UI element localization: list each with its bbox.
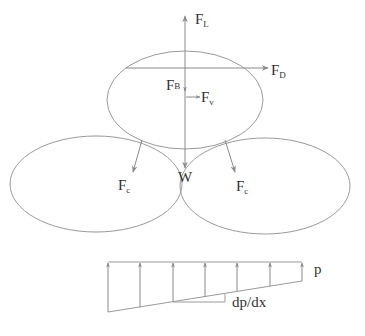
drag-label: FD [271,62,286,80]
contact-right-label: Fc [236,178,248,196]
buoyancy-label: FB [166,77,180,93]
svg-text:FL: FL [195,11,209,29]
svg-text:Fv: Fv [201,89,214,107]
lift-label: FL [195,11,209,29]
svg-text:Fc: Fc [118,177,130,195]
left-particle [10,136,182,232]
pressure-label: p [314,261,322,277]
contact-right-arrow [225,140,235,172]
right-particle [180,138,350,234]
virtual-mass-label: Fv [201,89,214,107]
svg-text:Fc: Fc [236,178,248,196]
svg-text:FB: FB [166,77,180,93]
weight-label: W [178,169,193,185]
force-diagram: FL FD FB Fv Fc Fc W p dp/dx [0,0,365,336]
gradient-label: dp/dx [232,294,267,310]
contact-left-arrow [133,140,142,172]
pressure-diagram [108,262,302,312]
svg-text:FD: FD [271,62,286,80]
contact-left-label: Fc [118,177,130,195]
